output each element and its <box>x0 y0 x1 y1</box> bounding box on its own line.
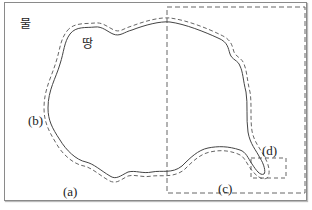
label-c: (c) <box>218 182 232 195</box>
water-label: 물 <box>20 18 31 30</box>
coastline-diagram <box>0 0 312 210</box>
land-label: 땅 <box>82 38 93 50</box>
label-a: (a) <box>63 185 77 198</box>
region-c-box <box>167 7 305 193</box>
coastline-dashed <box>44 18 269 182</box>
label-d: (d) <box>262 144 277 157</box>
label-b: (b) <box>28 114 43 127</box>
